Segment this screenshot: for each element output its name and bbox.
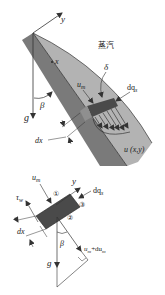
outflow-velocity-label: um+dum (84, 245, 106, 254)
wall-shear-label: τw (16, 193, 23, 203)
face-1-label: ① (53, 190, 59, 198)
vapor-label: 蒸汽 (98, 40, 114, 50)
dx-leader (48, 137, 66, 140)
heat-flux-label: dqs (127, 83, 138, 93)
inflow-velocity-label: um (32, 173, 41, 183)
face-3-label: ③ (79, 201, 85, 209)
inflow-velocity-arrow (40, 184, 51, 203)
bottom-figure: um y dqs ① ③ ② τw dx g β (15, 173, 106, 287)
element-width-label: dx (35, 136, 43, 145)
heat-flux-arrow-bottom (79, 191, 91, 198)
beta-arc (34, 92, 52, 98)
condensation-film-diagram: y x g β 蒸汽 δ um dqs (0, 0, 165, 295)
element-width-label-bottom: dx (17, 227, 25, 236)
y-axis-label: y (60, 14, 65, 24)
dx-arrow-bottom-1 (15, 217, 18, 222)
y-axis-label-bottom: y (71, 176, 76, 186)
gravity-label-bottom: g (47, 258, 52, 268)
dx-arrow-bottom-2 (30, 240, 33, 247)
film-thickness-label: δ (104, 62, 109, 72)
x-axis-label: x (54, 57, 59, 66)
heat-flux-label-bottom: dqs (93, 186, 104, 196)
velocity-profile-label: u (x,y) (124, 145, 145, 154)
control-element (36, 194, 80, 229)
wall-shear-arrow (26, 201, 38, 222)
dx-tick-bottom-1 (18, 216, 36, 220)
x-axis-dot (51, 61, 53, 63)
face-2-label: ② (67, 214, 73, 222)
triangle-base (57, 260, 88, 287)
right-angle-marker (78, 257, 86, 261)
dx-arrow-2 (69, 138, 71, 144)
beta-label-bottom: β (59, 239, 64, 248)
beta-arc-bottom (57, 232, 67, 234)
y-axis-arrow (33, 13, 62, 33)
gravity-label: g (24, 112, 29, 123)
beta-label: β (39, 100, 45, 110)
dx-arrow-1 (62, 120, 64, 126)
top-figure: y x g β 蒸汽 δ um dqs (22, 13, 152, 166)
dx-tick-bottom-2 (26, 229, 46, 236)
